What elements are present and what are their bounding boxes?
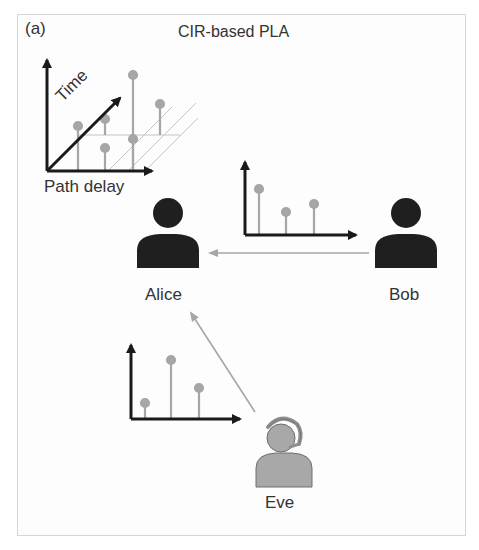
- bob-label: Bob: [389, 286, 419, 303]
- panel-label: (a): [25, 20, 46, 37]
- figure-title: CIR-based PLA: [178, 24, 289, 40]
- eve-to-alice-arrow: [191, 313, 255, 412]
- eve-label: Eve: [265, 494, 294, 511]
- bob-alice-cir-plot: [245, 162, 356, 235]
- path-delay-axis-label: Path delay: [44, 178, 124, 195]
- stems-t2: [101, 71, 164, 171]
- time-grid-lines: [108, 103, 198, 171]
- bob-person-icon: [375, 198, 437, 268]
- alice-label: Alice: [145, 286, 182, 303]
- eve-alice-cir-plot: [131, 345, 240, 419]
- alice-person-icon: [137, 198, 199, 268]
- eve-person-headset-icon: [256, 419, 312, 487]
